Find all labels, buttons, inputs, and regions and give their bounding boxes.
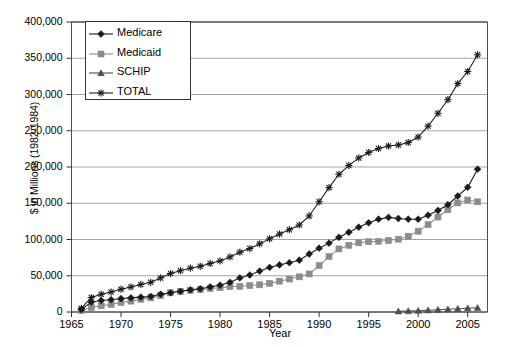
data-point-star (197, 263, 204, 270)
data-point-star (127, 283, 134, 290)
data-point-diamond (365, 219, 372, 226)
data-point-square (257, 282, 263, 288)
data-point-star (375, 145, 382, 152)
data-point-diamond (395, 215, 402, 222)
data-point-square (237, 283, 243, 289)
legend-marker-star-icon (88, 85, 114, 97)
data-point-diamond (286, 259, 293, 266)
data-point-square (296, 274, 302, 280)
data-point-star (256, 240, 263, 247)
data-point-star (385, 142, 392, 149)
data-point-square (395, 236, 401, 242)
data-point-star (335, 171, 342, 178)
data-point-square (247, 283, 253, 289)
data-point-diamond (256, 268, 263, 275)
data-point-diamond (98, 30, 105, 37)
data-point-star (167, 270, 174, 277)
data-point-star (187, 265, 194, 272)
data-point-star (147, 279, 154, 286)
data-point-square (465, 197, 471, 203)
data-point-square (98, 51, 104, 57)
data-point-square (356, 240, 362, 246)
data-point-diamond (375, 216, 382, 223)
data-point-star (286, 226, 293, 233)
data-point-diamond (415, 216, 422, 223)
data-point-star (345, 162, 352, 169)
data-point-square (455, 200, 461, 206)
data-point-star (365, 149, 372, 156)
data-point-star (355, 154, 362, 161)
data-point-star (276, 230, 283, 237)
data-point-diamond (425, 212, 432, 219)
legend-marker-diamond-icon (88, 26, 114, 38)
data-point-star (88, 294, 95, 301)
data-point-star (316, 198, 323, 205)
data-point-diamond (326, 240, 333, 247)
legend-label: Medicaid (117, 46, 161, 58)
data-point-diamond (405, 216, 412, 223)
data-point-square (385, 238, 391, 244)
legend-marker-triangle-icon (88, 65, 114, 77)
data-point-star (97, 90, 104, 97)
data-point-square (336, 246, 342, 252)
data-point-star (434, 110, 441, 117)
data-point-star (405, 139, 412, 146)
data-point-star (424, 123, 431, 130)
data-point-star (395, 141, 402, 148)
data-point-star (454, 80, 461, 87)
data-point-square (425, 222, 431, 228)
data-point-star (216, 257, 223, 264)
data-point-diamond (316, 245, 323, 252)
data-point-star (306, 212, 313, 219)
data-point-square (405, 233, 411, 239)
data-point-square (475, 199, 481, 205)
legend-marker-square-icon (88, 46, 114, 58)
legend-item-schip[interactable]: SCHIP (86, 62, 190, 82)
data-point-star (98, 291, 105, 298)
legend-item-medicare[interactable]: Medicare (86, 22, 190, 42)
plot-area (0, 0, 517, 347)
legend-label: TOTAL (117, 85, 151, 97)
data-point-square (316, 263, 322, 269)
data-point-square (277, 278, 283, 284)
data-point-star (78, 305, 85, 312)
data-point-star (444, 96, 451, 103)
data-point-star (137, 281, 144, 288)
data-point-star (325, 184, 332, 191)
data-point-star (177, 267, 184, 274)
data-point-diamond (345, 229, 352, 236)
data-point-diamond (306, 251, 313, 258)
data-point-star (415, 133, 422, 140)
data-point-diamond (276, 261, 283, 268)
chart-container: $ in Millions (1982-1984) Year 050,00010… (0, 0, 517, 347)
chart-legend: MedicareMedicaidSCHIPTOTAL (85, 21, 191, 100)
data-point-square (306, 271, 312, 277)
data-point-diamond (355, 224, 362, 231)
legend-label: Medicare (117, 26, 162, 38)
data-point-star (296, 221, 303, 228)
data-point-square (326, 254, 332, 260)
data-point-square (366, 239, 372, 245)
data-point-square (415, 228, 421, 234)
data-point-star (246, 245, 253, 252)
data-point-star (474, 51, 481, 58)
data-point-star (464, 68, 471, 75)
data-point-square (435, 214, 441, 220)
data-point-square (286, 276, 292, 282)
legend-label: SCHIP (117, 65, 151, 77)
legend-item-medicaid[interactable]: Medicaid (86, 42, 190, 62)
data-point-star (117, 286, 124, 293)
data-point-star (108, 288, 115, 295)
data-point-diamond (385, 214, 392, 221)
data-point-diamond (266, 264, 273, 271)
data-point-diamond (296, 257, 303, 264)
data-point-star (236, 249, 243, 256)
data-point-star (266, 235, 273, 242)
data-point-square (267, 280, 273, 286)
data-point-star (226, 253, 233, 260)
data-point-square (376, 238, 382, 244)
data-point-square (346, 242, 352, 248)
data-point-star (207, 260, 214, 267)
legend-item-total[interactable]: TOTAL (86, 81, 190, 101)
data-point-star (157, 274, 164, 281)
